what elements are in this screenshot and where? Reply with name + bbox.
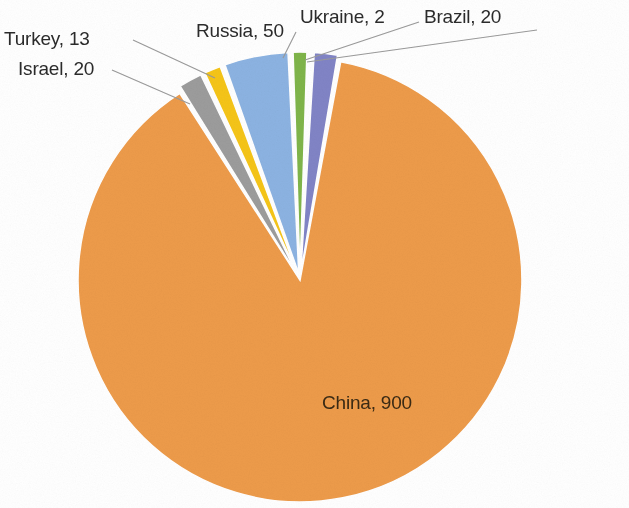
pie-slices-group (78, 52, 522, 502)
leader-line-israel (112, 70, 190, 104)
pie-chart-figure: Turkey, 13 Israel, 20 Russia, 50 Ukraine… (0, 0, 629, 508)
leader-line-kazakhstan (133, 40, 215, 78)
leader-line-brazil (307, 30, 537, 62)
pie-chart-svg (0, 0, 629, 508)
slice-label-russia: Russia, 50 (196, 20, 284, 42)
slice-label-turkey-text: Ukraine, 2 (300, 6, 385, 28)
slice-label-ukraine: Brazil, 20 (424, 6, 501, 28)
slice-label-israel: Israel, 20 (18, 58, 94, 80)
slice-label-kazakhstan: Turkey, 13 (4, 28, 90, 50)
slice-label-china: China, 900 (322, 392, 412, 414)
